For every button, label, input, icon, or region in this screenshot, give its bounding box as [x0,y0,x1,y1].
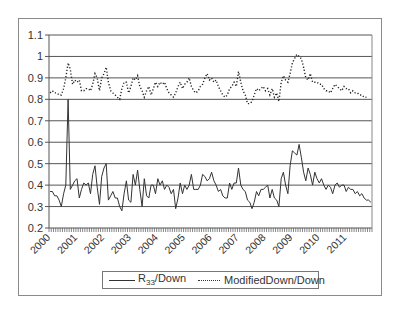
x-tick-label: 2004 [135,231,160,256]
x-tick-label: 2010 [297,231,322,256]
dotted-line-swatch-icon [198,280,220,281]
x-tick-label: 2009 [270,231,295,256]
x-tick-label: 2003 [108,231,133,256]
y-tick-label: 1.1 [28,29,43,41]
legend-item-modifieddown-down: ModifiedDown/Down [186,274,325,286]
x-tick-label: 2005 [162,231,187,256]
x-tick-label: 2001 [54,231,79,256]
solid-line-swatch-icon [109,280,135,281]
x-tick-label: 2007 [216,231,241,256]
y-tick-label: 0.7 [28,115,43,127]
y-tick-label: 0.4 [28,179,43,191]
x-tick-label: 2011 [324,231,349,256]
y-tick-label: 0.8 [28,93,43,105]
gridlines [45,35,372,228]
y-tick-label: 0.2 [28,222,43,234]
y-tick-label: 0.5 [28,158,43,170]
x-tick-label: 2008 [243,231,268,256]
legend-label-modifieddown-down: ModifiedDown/Down [224,274,325,286]
legend-item-r33-down: R33/Down [103,272,186,287]
x-tick-label: 2002 [81,231,106,256]
series-modifieddown-down-line [50,54,366,103]
legend-label-r33-down: R33/Down [138,272,186,287]
y-tick-label: 0.3 [28,201,43,213]
y-tick-label: 0.9 [28,72,43,84]
y-axis: 0.20.30.40.50.60.70.80.911.1 [28,29,372,234]
line-chart: 0.20.30.40.50.60.70.80.911.1 20002001200… [0,0,399,312]
series-r33-down-line [50,99,371,211]
y-tick-label: 0.6 [28,136,43,148]
x-axis: 2000200120022003200420052006200720082009… [27,228,372,256]
x-tick-label: 2006 [189,231,214,256]
x-tick-label: 2000 [27,231,52,256]
chart-legend: R33/Down ModifiedDown/Down [102,271,319,289]
y-tick-label: 1 [37,50,43,62]
